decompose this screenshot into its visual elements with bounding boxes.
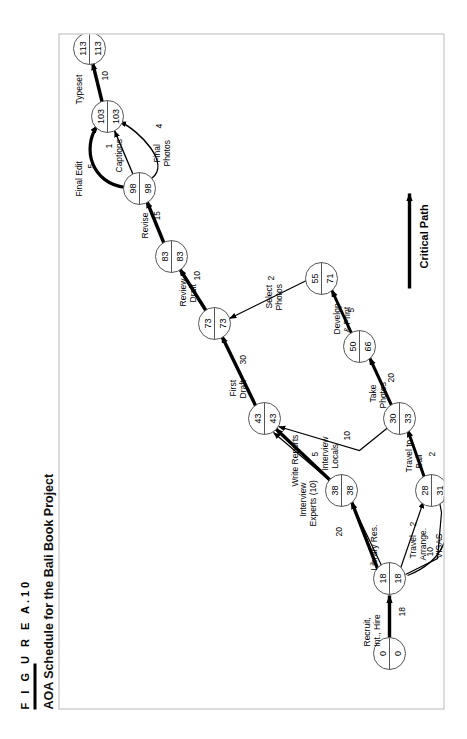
- node-55: 55 71: [305, 262, 337, 294]
- label-interview-experts-line2: Experts (10): [307, 480, 317, 526]
- node-0-early: 0: [377, 650, 387, 655]
- caption-rule: [33, 663, 36, 709]
- label-library-res-duration: 20: [333, 526, 343, 536]
- label-take-photos-duration: 20: [385, 372, 395, 382]
- node-73-late: 73: [217, 318, 227, 328]
- label-write-reports: Write Reports: [289, 434, 299, 486]
- label-travel-bali-line1: Travel to: [403, 439, 413, 472]
- node-98: 98 98: [123, 172, 155, 204]
- node-113-early: 113: [77, 41, 87, 55]
- node-50-late: 66: [362, 341, 372, 351]
- node-98-late: 98: [142, 183, 152, 193]
- node-43-late: 43: [267, 413, 277, 423]
- node-55-early: 55: [309, 273, 319, 283]
- label-typeset-duration: 10: [99, 70, 109, 80]
- node-18-early: 18: [377, 573, 387, 583]
- label-review-draft-line1: Review: [177, 277, 187, 306]
- node-103-late: 103: [110, 108, 120, 123]
- label-travel-bali-line2: Bali: [413, 454, 423, 468]
- node-50-early: 50: [347, 341, 357, 351]
- label-travel-arrange-line1: Travel: [407, 535, 417, 558]
- label-final-photos-line1: Final: [151, 143, 161, 162]
- node-83-late: 83: [174, 251, 184, 261]
- label-select-photos-line1: Select: [263, 284, 273, 308]
- node-50: 50 66: [343, 330, 375, 362]
- node-38-late: 38: [344, 485, 354, 495]
- node-73-early: 73: [202, 318, 212, 328]
- label-write-reports-duration: 5: [309, 451, 319, 456]
- arrow-typeset: [92, 62, 102, 103]
- node-28-late: 31: [434, 485, 443, 495]
- label-captions: Captions: [113, 138, 123, 172]
- node-0-late: 0: [392, 650, 402, 655]
- node-83-early: 83: [159, 251, 169, 261]
- label-visas-duration: 10: [424, 546, 434, 556]
- label-final-photos-line2: Photos: [161, 140, 171, 166]
- critical-path-label: Critical Path: [417, 204, 429, 268]
- node-28: 28 31: [415, 474, 443, 506]
- node-43-early: 43: [252, 413, 262, 423]
- label-first-draft-duration: 30: [237, 354, 247, 364]
- label-develop-print-duration: 5: [345, 307, 355, 312]
- label-interview-locals-duration: 10: [341, 430, 351, 440]
- node-43: 43 43: [248, 402, 280, 434]
- label-final-photos-duration: 4: [153, 123, 163, 128]
- figure-title: AOA Schedule for the Bali Book Project: [41, 49, 55, 709]
- label-revise-duration: 15: [151, 210, 161, 220]
- label-library-res: Library Res.: [368, 524, 378, 570]
- label-take-photos-line2: Photos: [377, 382, 387, 408]
- node-113-late: 113: [92, 41, 102, 55]
- node-103: 103 103: [91, 100, 123, 132]
- label-final-edit-duration: 5: [85, 163, 95, 168]
- label-captions-duration: 1: [103, 143, 113, 148]
- node-73: 73 73: [198, 307, 230, 339]
- node-83: 83 83: [155, 240, 187, 272]
- label-interview-locals-line2: Locals: [329, 443, 339, 468]
- label-review-draft-duration: 10: [191, 270, 201, 280]
- label-select-photos-duration: 2: [265, 275, 275, 280]
- label-recruit-line1: Recruit,: [361, 617, 371, 646]
- node-38-early: 38: [329, 485, 339, 495]
- label-travel-bali-duration: 2: [426, 451, 436, 456]
- label-final-edit: Final Edit: [73, 160, 83, 196]
- node-28-early: 28: [419, 485, 429, 495]
- figure-caption: F I G U R E A.10 AOA Schedule for the Ba…: [18, 49, 55, 709]
- label-visas: VISAS: [433, 533, 443, 558]
- critical-path-legend: Critical Path: [409, 193, 429, 288]
- node-55-late: 71: [324, 273, 334, 283]
- label-revise: Revise: [139, 212, 149, 238]
- rotated-figure-page: F I G U R E A.10 AOA Schedule for the Ba…: [0, 0, 467, 739]
- label-recruit-duration: 18: [396, 606, 406, 616]
- diagram-frame: 0 0 18 18 38 38 43 43: [58, 33, 444, 709]
- label-interview-locals-line1: Interview: [319, 435, 329, 470]
- label-recruit-line2: Int., Hire: [371, 614, 381, 646]
- label-review-draft-line2: Draft: [187, 283, 197, 302]
- node-98-early: 98: [127, 183, 137, 193]
- node-113: 113 113: [73, 34, 105, 64]
- label-take-photos-line1: Take: [367, 384, 377, 402]
- label-first-draft-line1: First: [227, 379, 237, 396]
- node-30-early: 30: [387, 413, 397, 423]
- label-first-draft-line2: Draft: [237, 379, 247, 398]
- label-develop-print-line1: Develop: [331, 303, 341, 334]
- label-travel-arrange-duration: 2: [407, 521, 417, 526]
- node-30: 30 33: [383, 402, 415, 434]
- label-typeset: Typeset: [73, 74, 83, 104]
- label-select-photos-line2: Photos: [273, 284, 283, 310]
- node-18-late: 18: [392, 573, 402, 583]
- node-30-late: 33: [402, 413, 412, 423]
- node-103-early: 103: [95, 108, 105, 123]
- aoa-network-diagram: 0 0 18 18 38 38 43 43: [59, 34, 443, 708]
- figure-number: F I G U R E A.10: [18, 49, 30, 709]
